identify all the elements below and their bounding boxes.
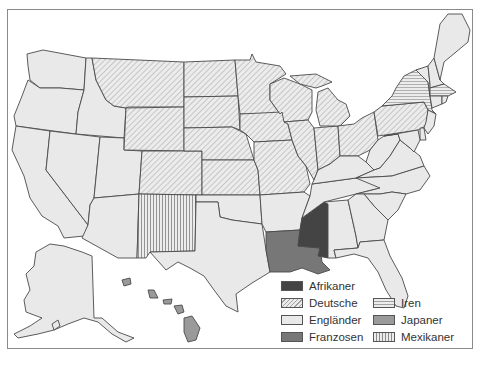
- state-hawaii-big-island: [184, 316, 200, 342]
- state-hawaii-maui: [174, 305, 184, 314]
- legend-label: Iren: [401, 297, 421, 309]
- state-hawaii-molokai: [163, 299, 172, 304]
- swatch-vertical-lines-icon: [373, 332, 395, 342]
- swatch-horizontal-lines-icon: [373, 298, 395, 308]
- state-arizona: [82, 194, 139, 258]
- swatch-diagonal-hatch-icon: [281, 298, 303, 308]
- legend-item-englaender: Engländer: [281, 313, 361, 327]
- legend-label: Franzosen: [309, 331, 363, 343]
- legend-label: Mexikaner: [401, 331, 454, 343]
- legend-item-deutsche: Deutsche: [281, 296, 358, 310]
- legend-label: Japaner: [401, 314, 443, 326]
- state-hawaii-kauai: [122, 278, 131, 286]
- legend-label: Afrikaner: [309, 280, 355, 292]
- swatch-solid-gray-icon: [373, 315, 395, 325]
- state-alaska: [14, 244, 134, 342]
- legend-label: Engländer: [309, 314, 361, 326]
- legend-item-franzosen: Franzosen: [281, 330, 363, 344]
- state-north-dakota: [184, 60, 238, 97]
- legend-item-afrikaner: Afrikaner: [281, 279, 355, 293]
- state-washington: [27, 50, 86, 90]
- state-new-mexico: [137, 194, 196, 258]
- legend-item-japaner: Japaner: [373, 313, 443, 327]
- state-colorado: [139, 151, 202, 195]
- state-rhode-island: [442, 96, 448, 104]
- map-legend: Afrikaner Deutsche Engländer Franzosen I…: [281, 279, 476, 345]
- legend-item-mexikaner: Mexikaner: [373, 330, 454, 344]
- state-south-dakota: [184, 96, 240, 130]
- swatch-solid-dark-icon: [281, 281, 303, 291]
- state-connecticut: [430, 96, 442, 108]
- swatch-light-icon: [281, 315, 303, 325]
- legend-label: Deutsche: [309, 297, 358, 309]
- state-wyoming: [124, 107, 184, 151]
- legend-item-iren: Iren: [373, 296, 421, 310]
- state-maine: [434, 14, 470, 80]
- state-hawaii-oahu: [148, 290, 158, 298]
- swatch-solid-medium-icon: [281, 332, 303, 342]
- state-kansas: [202, 160, 260, 195]
